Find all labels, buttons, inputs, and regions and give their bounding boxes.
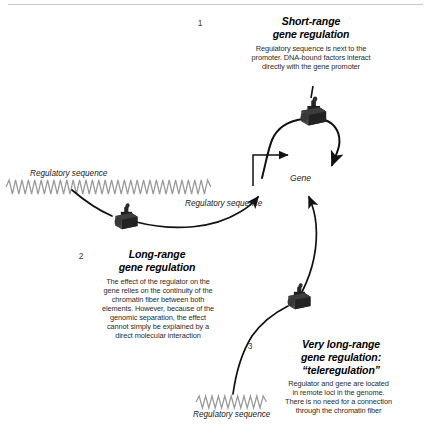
panel-2-body-line7: direct molecular interaction <box>58 332 258 341</box>
protein-complex-short-range <box>300 96 326 125</box>
gene-regulation-diagram: 1 Short-range gene regulation Regulatory… <box>0 0 431 436</box>
short-range-loop <box>262 86 339 178</box>
panel-2-title-line2: gene regulation <box>72 261 242 273</box>
panel-1-title-line2: gene regulation <box>211 28 411 40</box>
panel-1-number: 1 <box>193 18 207 28</box>
regulatory-sequence-label-left: Regulatory sequence <box>30 169 107 178</box>
panel-3-number: 3 <box>243 341 257 351</box>
panel-1-title-line1: Short-range <box>211 15 411 27</box>
main-dna-fiber <box>6 180 211 194</box>
panel-3-title-line3: “teleregulation” <box>251 364 431 376</box>
panel-2-number: 2 <box>74 251 88 261</box>
panel-3-body-line4: through the chromatin fiber <box>246 407 431 416</box>
panel-1-body-line3: directly with the gene promoter <box>191 63 431 72</box>
gene-label: Gene <box>290 173 311 183</box>
panel-2-title-line1: Long-range <box>92 248 222 260</box>
panel-3-title-line1: Very long-range <box>261 338 421 350</box>
protein-complex-teleregulation <box>288 283 311 309</box>
panel-3-title-line2: gene regulation: <box>251 351 431 363</box>
promoter-transcription-arrow <box>253 155 288 186</box>
protein-complex-long-range <box>115 203 138 229</box>
long-range-loop <box>72 190 258 227</box>
regulatory-sequence-label-mid: Regulatory sequence <box>185 199 262 208</box>
